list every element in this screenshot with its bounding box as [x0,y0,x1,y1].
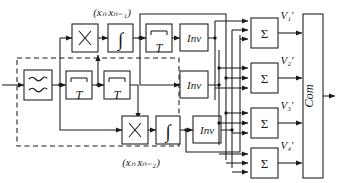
annotation-product-bottom: (xₙ xₙ₋₂) [122,156,160,169]
summer-block-3-label: Σ [261,116,269,131]
summer-block-4-label: Σ [261,156,269,171]
summer-block-1-label: Σ [261,26,269,41]
annotation-v1: V₁′ [281,9,295,21]
inv-block-3-label: Inv [199,124,214,136]
annotation-v2: V₂′ [281,54,295,66]
inv-block-2-label: Inv [186,79,201,91]
comparator-block-label: Com [302,84,316,108]
bus-inv2-up [208,50,219,85]
delay-block-3-label: T [156,41,164,55]
annotation-v4: V₄′ [281,139,295,151]
node-sum2-in1 [217,66,220,69]
delay-block-1-label: T [76,88,84,102]
diagram-canvas: T T T ∫ ∫ Inv Inv Inv Σ Σ Σ Σ Com (xₙ xₙ… [0,0,337,183]
node-sum2-in2 [224,76,227,79]
wire-d2-to-mult2 [130,85,138,112]
node-sum3-in1 [224,111,227,114]
node-sum3-in2 [217,121,220,124]
annotation-v3: V₃′ [281,99,295,111]
inv-block-1-label: Inv [186,32,201,44]
delay-block-2-label: T [114,88,122,102]
block-diagram-svg: T T T ∫ ∫ Inv Inv Inv Σ Σ Σ Σ Com (xₙ xₙ… [0,0,337,183]
annotation-product-top: (xₙ xₙ₋₁) [93,6,131,19]
summer-block-2-label: Σ [261,71,269,86]
node-inv1-branch [213,36,216,39]
bandpass-filter-block [24,70,52,100]
bus-inv1-up [208,21,215,38]
